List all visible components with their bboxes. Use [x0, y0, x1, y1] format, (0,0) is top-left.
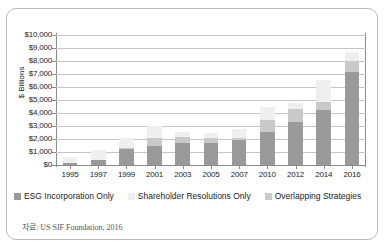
bar-segment[interactable]: [345, 52, 360, 62]
bar-segment[interactable]: [345, 72, 360, 165]
bar-group[interactable]: [119, 138, 134, 165]
x-tick-mark: [267, 165, 268, 169]
bar-segment[interactable]: [316, 80, 331, 102]
bar-group[interactable]: [345, 52, 360, 165]
x-tick-label: 2012: [281, 170, 309, 179]
x-tick-mark: [324, 165, 325, 169]
bar-segment[interactable]: [260, 120, 275, 133]
bar-segment[interactable]: [232, 140, 247, 165]
x-tick-mark: [239, 165, 240, 169]
bar-segment[interactable]: [91, 150, 106, 160]
y-tick-label: $6,000: [0, 82, 52, 91]
bar-group[interactable]: [232, 129, 247, 165]
legend-item[interactable]: Overlapping Strategies: [265, 191, 361, 201]
gridline: [56, 35, 366, 36]
legend-swatch-icon: [14, 193, 21, 200]
x-tick-mark: [296, 165, 297, 169]
bar-segment[interactable]: [147, 146, 162, 165]
bar-group[interactable]: [288, 103, 303, 165]
bar-group[interactable]: [63, 157, 78, 165]
x-tick-label: 2001: [141, 170, 169, 179]
x-tick-mark: [352, 165, 353, 169]
y-tick-label: $7,000: [0, 69, 52, 78]
bar-segment[interactable]: [316, 102, 331, 110]
legend-label: Shareholder Resolutions Only: [138, 191, 251, 201]
x-tick-mark: [155, 165, 156, 169]
x-tick-label: 2016: [338, 170, 366, 179]
legend-swatch-icon: [128, 193, 135, 200]
x-tick-label: 1997: [84, 170, 112, 179]
x-tick-label: 2014: [310, 170, 338, 179]
y-tick-label: $2,000: [0, 134, 52, 143]
x-tick-mark: [70, 165, 71, 169]
y-tick-mark: [52, 165, 56, 166]
y-tick-label: $4,000: [0, 108, 52, 117]
bar-group[interactable]: [260, 107, 275, 165]
bar-segment[interactable]: [147, 138, 162, 146]
legend-swatch-icon: [265, 193, 272, 200]
bar-segment[interactable]: [288, 122, 303, 165]
y-tick-label: $10,000: [0, 30, 52, 39]
legend-item[interactable]: Shareholder Resolutions Only: [128, 191, 251, 201]
y-tick-label: $5,000: [0, 95, 52, 104]
x-tick-mark: [98, 165, 99, 169]
bar-segment[interactable]: [204, 143, 219, 165]
bar-segment[interactable]: [119, 149, 134, 165]
x-tick-label: 2003: [169, 170, 197, 179]
bar-group[interactable]: [147, 126, 162, 165]
legend-item[interactable]: ESG Incorporation Only: [14, 191, 114, 201]
stacked-bar-chart: $ Billions $0$1,000$2,000$3,000$4,000$5,…: [0, 0, 386, 248]
gridline: [56, 74, 366, 75]
y-tick-label: $3,000: [0, 121, 52, 130]
bar-segment[interactable]: [260, 132, 275, 165]
bar-segment[interactable]: [232, 129, 247, 139]
bar-segment[interactable]: [147, 126, 162, 138]
x-tick-mark: [211, 165, 212, 169]
source-note: 자료: US SIF Foundation, 2016: [22, 221, 122, 232]
bar-segment[interactable]: [316, 110, 331, 166]
x-tick-mark: [126, 165, 127, 169]
y-tick-label: $0: [0, 160, 52, 169]
gridline: [56, 48, 366, 49]
x-tick-label: 2010: [253, 170, 281, 179]
bar-segment[interactable]: [119, 138, 134, 148]
y-tick-label: $8,000: [0, 56, 52, 65]
bar-group[interactable]: [316, 80, 331, 165]
x-tick-label: 2007: [225, 170, 253, 179]
bar-segment[interactable]: [175, 143, 190, 165]
legend-label: Overlapping Strategies: [275, 191, 361, 201]
bar-segment[interactable]: [260, 107, 275, 120]
bar-segment[interactable]: [288, 109, 303, 122]
bar-segment[interactable]: [345, 61, 360, 72]
y-tick-label: $9,000: [0, 43, 52, 52]
legend-label: ESG Incorporation Only: [24, 191, 114, 201]
y-tick-label: $1,000: [0, 147, 52, 156]
x-tick-label: 2005: [197, 170, 225, 179]
x-tick-mark: [183, 165, 184, 169]
bar-group[interactable]: [91, 150, 106, 165]
chart-legend: ESG Incorporation OnlyShareholder Resolu…: [14, 191, 374, 201]
plot-area: [56, 35, 366, 165]
x-tick-label: 1999: [112, 170, 140, 179]
bar-group[interactable]: [175, 132, 190, 165]
gridline: [56, 61, 366, 62]
x-tick-label: 1995: [56, 170, 84, 179]
bar-group[interactable]: [204, 133, 219, 165]
